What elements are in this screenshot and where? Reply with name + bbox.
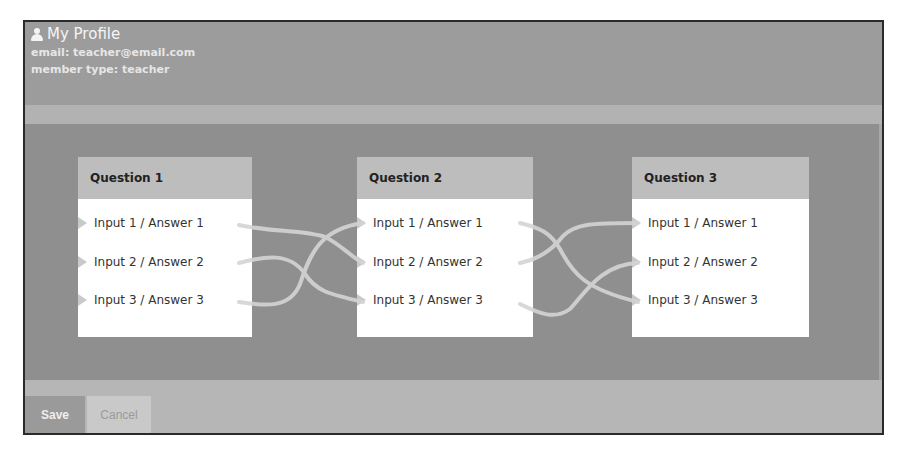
scrollbar[interactable] bbox=[879, 124, 882, 380]
profile-member-type: member type: teacher bbox=[31, 63, 169, 76]
answer-row-2[interactable]: Input 2 / Answer 2 bbox=[373, 255, 483, 269]
input-arrow-icon[interactable] bbox=[632, 256, 641, 268]
answer-row-1[interactable]: Input 1 / Answer 1 bbox=[94, 216, 204, 230]
input-arrow-icon[interactable] bbox=[78, 217, 87, 229]
profile-window: My Profile email: teacher@email.com memb… bbox=[23, 20, 884, 435]
input-arrow-icon[interactable] bbox=[357, 217, 366, 229]
input-arrow-icon[interactable] bbox=[78, 256, 87, 268]
answer-row-3[interactable]: Input 3 / Answer 3 bbox=[648, 293, 758, 307]
question-title: Question 3 bbox=[632, 157, 809, 199]
answer-row-2[interactable]: Input 2 / Answer 2 bbox=[94, 255, 204, 269]
question-title: Question 1 bbox=[78, 157, 252, 199]
answer-row-1[interactable]: Input 1 / Answer 1 bbox=[648, 216, 758, 230]
input-arrow-icon[interactable] bbox=[632, 217, 641, 229]
input-arrow-icon[interactable] bbox=[357, 294, 366, 306]
question-card-1[interactable]: Question 1 Input 1 / Answer 1 Input 2 / … bbox=[78, 157, 252, 337]
connector-q1r2-q2r3 bbox=[239, 257, 363, 302]
input-arrow-icon[interactable] bbox=[632, 294, 641, 306]
user-icon bbox=[31, 28, 43, 41]
answer-row-3[interactable]: Input 3 / Answer 3 bbox=[373, 293, 483, 307]
question-card-2[interactable]: Question 2 Input 1 / Answer 1 Input 2 / … bbox=[357, 157, 533, 337]
profile-title-text: My Profile bbox=[47, 25, 120, 43]
profile-email: email: teacher@email.com bbox=[31, 46, 195, 59]
connector-q1r1-q2r2 bbox=[239, 225, 363, 263]
profile-header: My Profile email: teacher@email.com memb… bbox=[25, 22, 882, 105]
input-arrow-icon[interactable] bbox=[357, 256, 366, 268]
question-title: Question 2 bbox=[357, 157, 533, 199]
input-arrow-icon[interactable] bbox=[78, 294, 87, 306]
profile-title: My Profile bbox=[31, 25, 120, 43]
answer-row-1[interactable]: Input 1 / Answer 1 bbox=[373, 216, 483, 230]
question-flow-canvas: Question 1 Input 1 / Answer 1 Input 2 / … bbox=[25, 124, 882, 380]
connector-q2r1-q3r3 bbox=[520, 223, 638, 302]
save-button[interactable]: Save bbox=[25, 396, 85, 433]
answer-row-3[interactable]: Input 3 / Answer 3 bbox=[94, 293, 204, 307]
cancel-button[interactable]: Cancel bbox=[87, 396, 151, 433]
footer-bar: Save Cancel bbox=[25, 380, 882, 433]
question-card-3[interactable]: Question 3 Input 1 / Answer 1 Input 2 / … bbox=[632, 157, 809, 337]
connector-q1r3-q2r1 bbox=[239, 223, 363, 305]
connector-q2r3-q3r2 bbox=[520, 263, 638, 315]
header-divider bbox=[25, 105, 882, 124]
answer-row-2[interactable]: Input 2 / Answer 2 bbox=[648, 255, 758, 269]
connector-q2r2-q3r1 bbox=[520, 223, 638, 263]
